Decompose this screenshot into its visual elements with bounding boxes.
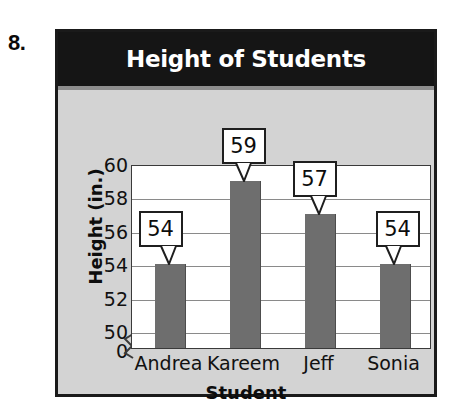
x-axis-title: Student — [58, 382, 434, 403]
y-axis-tick-label: 54 — [86, 254, 128, 276]
callout-tail-icon — [160, 245, 178, 265]
x-axis-tick-label: Jeff — [281, 352, 356, 380]
y-axis-tick-label: 58 — [86, 187, 128, 209]
x-axis-tick-label: Sonia — [356, 352, 431, 380]
bar-kareem — [230, 181, 261, 348]
gridline — [132, 199, 430, 200]
y-axis-tick-label: 56 — [86, 221, 128, 243]
value-callout-jeff: 57 — [293, 161, 337, 197]
chart-body: Height (in.) 6058565452500 54595754 Andr… — [58, 90, 434, 394]
page-title: Height of Students — [126, 46, 366, 72]
y-axis-tick-label: 60 — [86, 154, 128, 176]
value-callout-sonia: 54 — [376, 211, 420, 247]
y-axis-tick-label: 52 — [86, 288, 128, 310]
callout-tail-icon — [385, 245, 403, 265]
chart-title-banner: Height of Students — [58, 32, 434, 86]
bar-andrea — [155, 264, 186, 348]
callout-tail-icon — [235, 162, 253, 182]
problem-number: 8. — [8, 30, 25, 56]
bar-jeff — [305, 214, 336, 348]
callout-tail-icon — [310, 195, 328, 215]
value-callout-andrea: 54 — [139, 211, 183, 247]
chart-card: Height of Students Height (in.) 60585654… — [55, 29, 437, 397]
x-axis-tick-label: Andrea — [131, 352, 206, 380]
x-axis-tick-row: AndreaKareemJeffSonia — [131, 352, 431, 380]
x-axis-tick-label: Kareem — [206, 352, 281, 380]
bar-sonia — [380, 264, 411, 348]
value-callout-kareem: 59 — [222, 128, 266, 164]
